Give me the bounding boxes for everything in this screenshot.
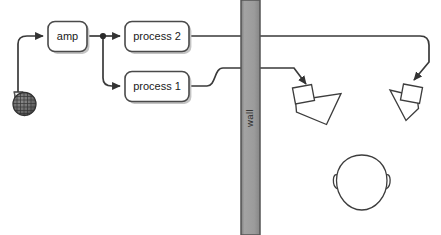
amp-box-label: amp [57, 30, 78, 42]
speaker-right [390, 84, 423, 121]
speaker-left-driver [293, 85, 315, 105]
speaker-left [293, 85, 342, 125]
microphone-icon [13, 92, 36, 117]
process2-box-label: process 2 [133, 30, 181, 42]
head-icon [333, 155, 390, 210]
wire-mic-to-amp [18, 36, 43, 92]
wall-label: wall [244, 109, 255, 128]
wire-junction-to-process1 [103, 36, 120, 86]
process1-box-label: process 1 [133, 80, 181, 92]
wall: wall [241, 0, 260, 235]
speaker-right-driver [401, 84, 423, 104]
node-amp[interactable]: amp [48, 22, 89, 54]
signal-flow-diagram: wall amp process 2 process 1 [0, 0, 441, 235]
node-process-2[interactable]: process 2 [125, 22, 191, 54]
wire-process2-to-speaker-right [188, 36, 429, 80]
node-process-1[interactable]: process 1 [125, 72, 191, 104]
diagram-canvas: wall amp process 2 process 1 [0, 0, 441, 235]
junction-dot [100, 33, 106, 39]
microphone-mesh-ball [13, 93, 36, 116]
head-outline [337, 155, 388, 210]
